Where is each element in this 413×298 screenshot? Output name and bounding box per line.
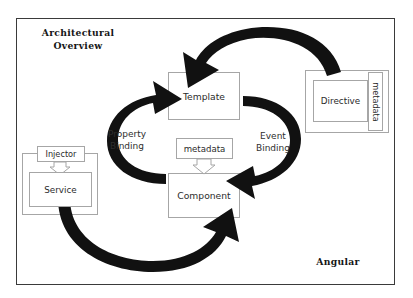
label-event-binding-line2: Binding <box>256 143 290 153</box>
label-property-binding-line2: Binding <box>110 141 144 151</box>
label-event-binding: Event Binding <box>242 131 304 154</box>
node-directive-metadata-label: metadata <box>371 82 381 122</box>
node-injector[interactable]: Injector <box>37 146 85 162</box>
architectural-overview-diagram: Architectural Overview Angular Injector … <box>0 0 413 298</box>
label-event-binding-line1: Event <box>260 131 286 141</box>
label-property-binding-line1: Property <box>108 129 146 139</box>
brand-label: Angular <box>303 256 373 267</box>
page-title: Architectural Overview <box>30 27 126 52</box>
node-directive-metadata[interactable]: metadata <box>368 72 383 131</box>
node-component[interactable]: Component <box>168 173 240 218</box>
label-property-binding: Property Binding <box>96 129 158 152</box>
page-title-line1: Architectural <box>42 27 115 38</box>
page-title-line2: Overview <box>53 40 102 51</box>
node-component-metadata[interactable]: metadata <box>176 138 233 159</box>
node-template[interactable]: Template <box>168 72 240 120</box>
node-service[interactable]: Service <box>29 172 92 207</box>
node-directive[interactable]: Directive <box>313 80 368 122</box>
